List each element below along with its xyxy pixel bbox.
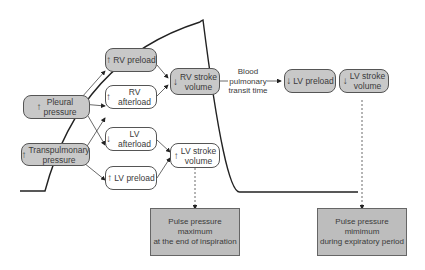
rv-afterload-node: ↑ RV afterload — [105, 85, 157, 109]
pulse-pressure-maximum-box: Pulse pressure maximumat the end of insp… — [150, 208, 240, 256]
up-arrow-icon: ↑ — [21, 150, 26, 160]
rv-preload-node: ↑ RV preload — [105, 48, 157, 72]
lv-stroke-volume-increased-node: ↑ LV strokevolume — [170, 143, 220, 168]
up-arrow-icon: ↑ — [106, 92, 111, 102]
up-arrow-icon: ↑ — [106, 55, 111, 65]
lv-preload-node: ↑ LV preload — [105, 166, 157, 190]
down-arrow-icon: ↓ — [343, 76, 348, 86]
rv-stroke-volume-node: ↓ RV strokevolume — [170, 68, 220, 95]
pulse-pressure-minimum-box: Pulse pressure mimimumduring expiratory … — [317, 208, 407, 256]
up-arrow-icon: ↑ — [107, 173, 112, 183]
pleural-pressure-node: ↑ Pleuralpressure — [23, 95, 90, 119]
lv-preload-decreased-node: ↓ LV preload — [284, 69, 336, 93]
blood-pulmonary-transit-time-label: Bloodpulmonarytransit time — [226, 67, 270, 96]
lv-afterload-node: ↓ LV afterload — [105, 127, 157, 151]
down-arrow-icon: ↓ — [106, 134, 111, 144]
lv-stroke-volume-decreased-node: ↓ LV strokevolume — [339, 69, 389, 93]
down-arrow-icon: ↓ — [286, 76, 291, 86]
down-arrow-icon: ↓ — [173, 77, 178, 87]
up-arrow-icon: ↑ — [36, 102, 41, 112]
transpulmonary-pressure-node: ↑ Transpulmonarypressure — [21, 143, 90, 166]
up-arrow-icon: ↑ — [174, 151, 179, 161]
